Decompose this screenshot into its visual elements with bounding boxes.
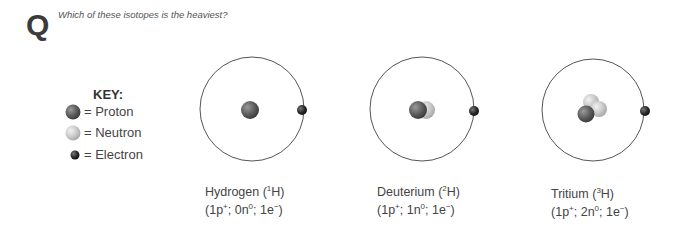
hydrogen-label: Hydrogen (1H) (1p+; 0n0; 1e−) [205,183,285,219]
hydrogen-electron-icon [297,105,307,115]
tritium-electron-icon [640,106,650,116]
tritium-atom [542,59,650,161]
deuterium-label: Deuterium (2H) (1p+; 1n0; 1e−) [377,183,460,219]
hydrogen-proton-icon [241,101,259,119]
deuterium-proton-icon [409,101,427,119]
key-label-neutron: = Neutron [84,125,141,140]
tritium-proton-icon [578,106,595,123]
key-title: KEY: [93,87,123,102]
key-proton-icon [66,105,81,120]
deuterium-atom [370,57,479,161]
deuterium-electron-icon [469,106,479,116]
key-label-proton: = Proton [84,104,134,119]
key-neutron-icon [66,126,81,141]
key-label-electron: = Electron [84,147,143,162]
tritium-label: Tritium (3H) (1p+; 2n0; 1e−) [551,185,629,221]
key-electron-icon [71,151,80,160]
hydrogen-atom [200,57,307,161]
